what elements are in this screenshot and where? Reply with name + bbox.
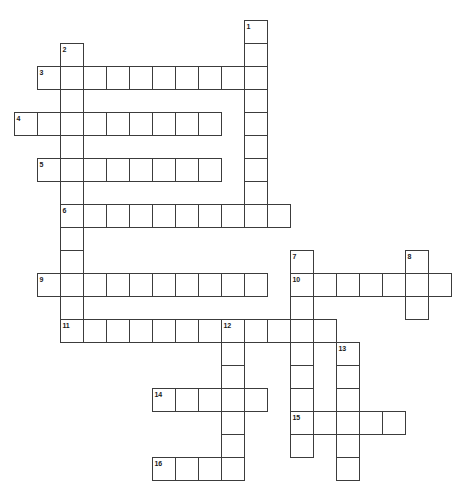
crossword-cell[interactable] bbox=[336, 388, 360, 412]
crossword-cell[interactable] bbox=[175, 66, 199, 90]
crossword-cell[interactable] bbox=[60, 273, 84, 297]
crossword-cell[interactable] bbox=[175, 273, 199, 297]
crossword-cell[interactable] bbox=[290, 434, 314, 458]
crossword-cell[interactable] bbox=[221, 342, 245, 366]
crossword-cell[interactable] bbox=[152, 388, 176, 412]
crossword-cell[interactable] bbox=[60, 204, 84, 228]
crossword-cell[interactable] bbox=[336, 457, 360, 481]
crossword-cell[interactable] bbox=[60, 89, 84, 113]
crossword-cell[interactable] bbox=[267, 204, 291, 228]
crossword-cell[interactable] bbox=[152, 158, 176, 182]
crossword-cell[interactable] bbox=[244, 158, 268, 182]
crossword-cell[interactable] bbox=[244, 112, 268, 136]
crossword-cell[interactable] bbox=[244, 43, 268, 67]
crossword-cell[interactable] bbox=[244, 66, 268, 90]
crossword-cell[interactable] bbox=[198, 457, 222, 481]
crossword-cell[interactable] bbox=[405, 250, 429, 274]
crossword-cell[interactable] bbox=[221, 434, 245, 458]
crossword-cell[interactable] bbox=[244, 20, 268, 44]
crossword-cell[interactable] bbox=[106, 158, 130, 182]
crossword-cell[interactable] bbox=[290, 296, 314, 320]
crossword-cell[interactable] bbox=[290, 319, 314, 343]
crossword-cell[interactable] bbox=[83, 319, 107, 343]
crossword-cell[interactable] bbox=[60, 43, 84, 67]
crossword-cell[interactable] bbox=[106, 319, 130, 343]
crossword-cell[interactable] bbox=[60, 181, 84, 205]
crossword-cell[interactable] bbox=[175, 204, 199, 228]
crossword-cell[interactable] bbox=[129, 319, 153, 343]
crossword-cell[interactable] bbox=[152, 319, 176, 343]
crossword-cell[interactable] bbox=[221, 204, 245, 228]
crossword-cell[interactable] bbox=[290, 342, 314, 366]
crossword-cell[interactable] bbox=[244, 181, 268, 205]
crossword-cell[interactable] bbox=[198, 158, 222, 182]
crossword-cell[interactable] bbox=[359, 411, 383, 435]
crossword-cell[interactable] bbox=[359, 273, 383, 297]
crossword-cell[interactable] bbox=[60, 135, 84, 159]
crossword-cell[interactable] bbox=[244, 273, 268, 297]
crossword-cell[interactable] bbox=[244, 204, 268, 228]
crossword-cell[interactable] bbox=[336, 434, 360, 458]
crossword-cell[interactable] bbox=[106, 66, 130, 90]
crossword-cell[interactable] bbox=[221, 66, 245, 90]
crossword-cell[interactable] bbox=[106, 273, 130, 297]
crossword-cell[interactable] bbox=[221, 273, 245, 297]
crossword-cell[interactable] bbox=[83, 112, 107, 136]
crossword-cell[interactable] bbox=[336, 365, 360, 389]
crossword-cell[interactable] bbox=[405, 296, 429, 320]
crossword-cell[interactable] bbox=[198, 66, 222, 90]
crossword-cell[interactable] bbox=[152, 204, 176, 228]
crossword-cell[interactable] bbox=[60, 158, 84, 182]
crossword-cell[interactable] bbox=[175, 158, 199, 182]
crossword-cell[interactable] bbox=[382, 273, 406, 297]
crossword-cell[interactable] bbox=[175, 319, 199, 343]
crossword-cell[interactable] bbox=[175, 457, 199, 481]
crossword-cell[interactable] bbox=[313, 319, 337, 343]
crossword-cell[interactable] bbox=[336, 411, 360, 435]
crossword-cell[interactable] bbox=[221, 319, 245, 343]
crossword-cell[interactable] bbox=[37, 273, 61, 297]
crossword-cell[interactable] bbox=[198, 319, 222, 343]
crossword-cell[interactable] bbox=[14, 112, 38, 136]
crossword-cell[interactable] bbox=[106, 112, 130, 136]
crossword-cell[interactable] bbox=[152, 273, 176, 297]
crossword-cell[interactable] bbox=[313, 273, 337, 297]
crossword-cell[interactable] bbox=[129, 158, 153, 182]
crossword-cell[interactable] bbox=[60, 227, 84, 251]
crossword-cell[interactable] bbox=[129, 204, 153, 228]
crossword-cell[interactable] bbox=[405, 273, 429, 297]
crossword-cell[interactable] bbox=[428, 273, 452, 297]
crossword-cell[interactable] bbox=[244, 388, 268, 412]
crossword-cell[interactable] bbox=[83, 158, 107, 182]
crossword-cell[interactable] bbox=[106, 204, 130, 228]
crossword-cell[interactable] bbox=[198, 112, 222, 136]
crossword-cell[interactable] bbox=[129, 66, 153, 90]
crossword-cell[interactable] bbox=[336, 342, 360, 366]
crossword-cell[interactable] bbox=[60, 296, 84, 320]
crossword-cell[interactable] bbox=[244, 89, 268, 113]
crossword-cell[interactable] bbox=[290, 411, 314, 435]
crossword-cell[interactable] bbox=[37, 112, 61, 136]
crossword-cell[interactable] bbox=[37, 66, 61, 90]
crossword-cell[interactable] bbox=[382, 411, 406, 435]
crossword-cell[interactable] bbox=[152, 66, 176, 90]
crossword-cell[interactable] bbox=[152, 112, 176, 136]
crossword-cell[interactable] bbox=[290, 365, 314, 389]
crossword-cell[interactable] bbox=[267, 319, 291, 343]
crossword-cell[interactable] bbox=[60, 250, 84, 274]
crossword-cell[interactable] bbox=[221, 365, 245, 389]
crossword-cell[interactable] bbox=[60, 66, 84, 90]
crossword-cell[interactable] bbox=[221, 457, 245, 481]
crossword-cell[interactable] bbox=[290, 388, 314, 412]
crossword-cell[interactable] bbox=[198, 273, 222, 297]
crossword-cell[interactable] bbox=[221, 388, 245, 412]
crossword-cell[interactable] bbox=[83, 204, 107, 228]
crossword-cell[interactable] bbox=[244, 319, 268, 343]
crossword-cell[interactable] bbox=[336, 273, 360, 297]
crossword-cell[interactable] bbox=[198, 388, 222, 412]
crossword-cell[interactable] bbox=[313, 411, 337, 435]
crossword-cell[interactable] bbox=[83, 273, 107, 297]
crossword-cell[interactable] bbox=[83, 66, 107, 90]
crossword-cell[interactable] bbox=[60, 112, 84, 136]
crossword-cell[interactable] bbox=[60, 319, 84, 343]
